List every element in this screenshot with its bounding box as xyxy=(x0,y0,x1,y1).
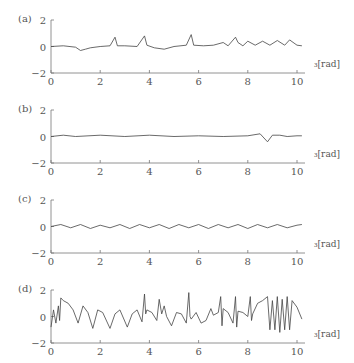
x-tick-label: 6 xyxy=(195,346,201,357)
x-tick-label: 8 xyxy=(245,346,251,357)
x-unit-label: ₃[rad] xyxy=(314,59,340,69)
y-tick-label: 0 xyxy=(40,132,46,143)
x-tick-label: 6 xyxy=(195,76,201,87)
x-tick-label: 6 xyxy=(195,166,201,177)
x-tick-label: 6 xyxy=(195,256,201,267)
y-tick-label: 2 xyxy=(40,15,46,26)
y-tick-label: 0 xyxy=(40,312,46,323)
panel-c: (c)20−20246810₃[rad] xyxy=(18,193,340,267)
x-tick-label: 2 xyxy=(97,166,103,177)
x-tick-label: 2 xyxy=(97,346,103,357)
y-tick-label: −2 xyxy=(31,68,46,79)
panel-label: (a) xyxy=(18,13,32,24)
y-tick-label: 2 xyxy=(40,285,46,296)
x-tick-label: 0 xyxy=(48,76,54,87)
x-tick-label: 0 xyxy=(48,346,54,357)
series-line xyxy=(51,225,302,229)
x-tick-label: 2 xyxy=(97,76,103,87)
y-tick-label: −2 xyxy=(31,338,46,349)
panel-d: (d)20−20246810₃[rad] xyxy=(18,283,340,357)
x-unit-label: ₃[rad] xyxy=(314,149,340,159)
y-tick-label: 2 xyxy=(40,195,46,206)
x-tick-label: 8 xyxy=(245,76,251,87)
x-tick-label: 0 xyxy=(48,256,54,267)
y-tick-label: 2 xyxy=(40,105,46,116)
panel-label: (b) xyxy=(18,103,32,114)
x-tick-label: 4 xyxy=(146,256,152,267)
panel-a: (a)20−20246810₃[rad] xyxy=(18,13,340,87)
panel-label: (c) xyxy=(18,193,32,204)
x-tick-label: 4 xyxy=(146,76,152,87)
y-tick-label: −2 xyxy=(31,248,46,259)
panel-label: (d) xyxy=(18,283,32,294)
series-line xyxy=(51,293,302,333)
series-line xyxy=(51,35,302,51)
y-tick-label: 0 xyxy=(40,222,46,233)
x-tick-label: 8 xyxy=(245,166,251,177)
x-tick-label: 4 xyxy=(146,346,152,357)
x-tick-label: 10 xyxy=(291,76,304,87)
y-tick-label: −2 xyxy=(31,158,46,169)
x-tick-label: 0 xyxy=(48,166,54,177)
x-unit-label: ₃[rad] xyxy=(314,239,340,249)
x-unit-label: ₃[rad] xyxy=(314,329,340,339)
figure: (a)20−20246810₃[rad](b)20−20246810₃[rad]… xyxy=(0,0,354,363)
x-tick-label: 2 xyxy=(97,256,103,267)
x-tick-label: 10 xyxy=(291,346,304,357)
x-tick-label: 8 xyxy=(245,256,251,267)
x-tick-label: 4 xyxy=(146,166,152,177)
series-line xyxy=(51,134,302,142)
x-tick-label: 10 xyxy=(291,166,304,177)
x-tick-label: 10 xyxy=(291,256,304,267)
y-tick-label: 0 xyxy=(40,42,46,53)
panel-b: (b)20−20246810₃[rad] xyxy=(18,103,340,177)
